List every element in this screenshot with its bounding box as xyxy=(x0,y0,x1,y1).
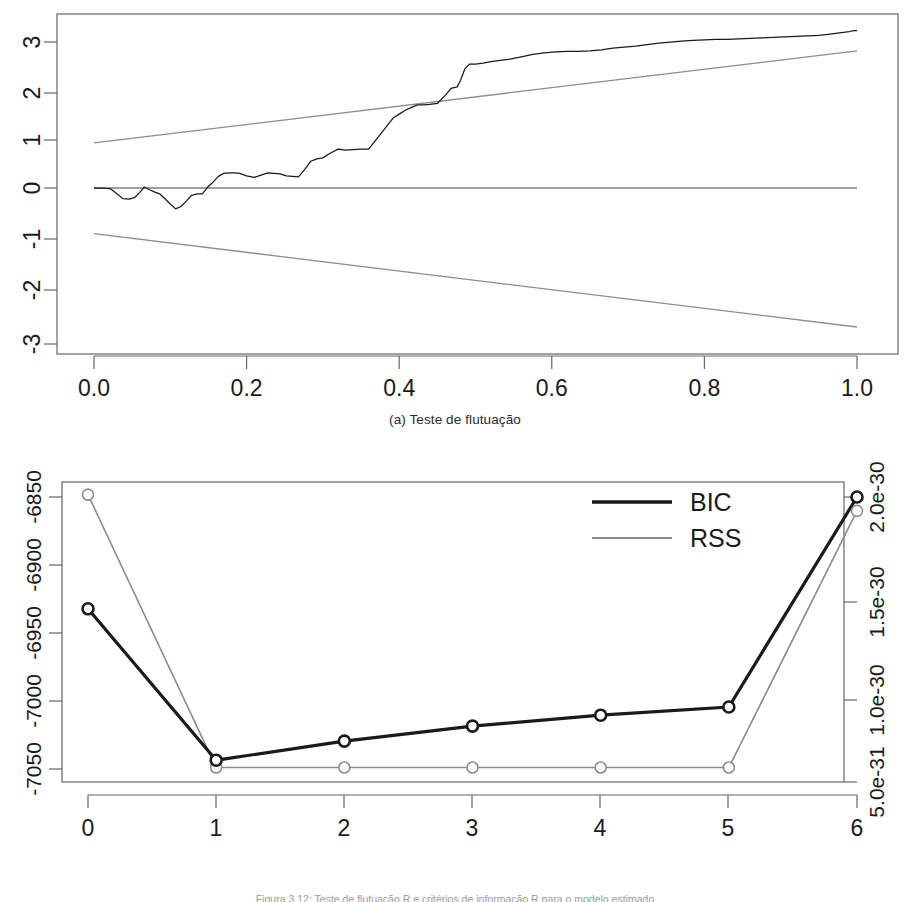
panel-a-fluctuation-test: 3 2 1 0 -1 -2 -3 0.0 0.2 0.4 xyxy=(0,0,910,452)
data-point-marker xyxy=(211,755,222,766)
right-tick-label: 1.0e-30 xyxy=(865,664,888,735)
y-tick-label: -3 xyxy=(19,334,45,354)
data-point-marker xyxy=(467,721,478,732)
panel-b-legend: BIC RSS xyxy=(592,488,741,552)
panel-b-series-group xyxy=(83,489,863,773)
x-tick-label: 3 xyxy=(466,815,479,841)
x-tick-label: 5 xyxy=(722,815,735,841)
x-tick-label: 0.4 xyxy=(383,375,415,401)
legend-label-rss: RSS xyxy=(690,524,741,552)
figure-caption: Figura 3.12: Teste de flutuação R e crit… xyxy=(0,893,910,902)
right-tick-label: 1.5e-30 xyxy=(865,566,888,637)
series-upper-boundary xyxy=(94,51,857,143)
x-tick-label: 4 xyxy=(594,815,607,841)
x-tick-label: 1.0 xyxy=(841,375,873,401)
panel-b-information-criteria: -6850 -6900 -6950 -7000 -7050 2.0e-30 1.… xyxy=(0,452,910,902)
y-tick-label: 1 xyxy=(19,134,45,147)
x-tick-label: 0.2 xyxy=(231,375,263,401)
x-tick-label: 0.8 xyxy=(688,375,720,401)
right-tick-label: 2.0e-30 xyxy=(865,461,888,532)
left-tick-label: -6950 xyxy=(22,606,45,660)
panel-b-svg: -6850 -6900 -6950 -7000 -7050 2.0e-30 1.… xyxy=(0,452,910,902)
data-point-marker xyxy=(595,762,606,773)
panel-b-x-axis xyxy=(88,795,857,808)
x-tick-label: 0.6 xyxy=(536,375,568,401)
panel-a-x-ticklabels: 0.0 0.2 0.4 0.6 0.8 1.0 xyxy=(78,375,873,401)
panel-b-right-ticklabels: 2.0e-30 1.5e-30 1.0e-30 5.0e-31 xyxy=(865,461,888,817)
panel-a-y-axis xyxy=(44,42,57,344)
y-tick-label: 0 xyxy=(19,182,45,195)
y-tick-label: -2 xyxy=(19,280,45,300)
x-tick-label: 2 xyxy=(338,815,351,841)
y-tick-label: 3 xyxy=(19,36,45,49)
panel-b-x-ticklabels: 0 1 2 3 4 5 6 xyxy=(82,815,864,841)
panel-a-x-axis xyxy=(94,356,857,369)
panel-a-y-ticklabels: 3 2 1 0 -1 -2 -3 xyxy=(19,36,45,355)
x-tick-label: 1 xyxy=(210,815,223,841)
series-lower-boundary xyxy=(94,234,857,327)
data-point-marker xyxy=(852,492,863,503)
figure-root: 3 2 1 0 -1 -2 -3 0.0 0.2 0.4 xyxy=(0,0,910,902)
data-point-marker xyxy=(467,762,478,773)
legend-label-bic: BIC xyxy=(690,488,732,516)
x-tick-label: 0 xyxy=(82,815,95,841)
left-tick-label: -7000 xyxy=(22,674,45,728)
data-point-marker xyxy=(83,489,94,500)
right-tick-label: 5.0e-31 xyxy=(865,746,888,817)
data-point-marker xyxy=(723,762,734,773)
left-tick-label: -7050 xyxy=(22,742,45,796)
data-point-marker xyxy=(723,702,734,713)
panel-a-caption: (a) Teste de flutuação xyxy=(0,412,910,427)
y-tick-label: -1 xyxy=(19,229,45,249)
data-point-marker xyxy=(595,710,606,721)
data-point-marker xyxy=(852,505,863,516)
y-tick-label: 2 xyxy=(19,87,45,100)
series-bic-markers xyxy=(83,492,863,766)
left-tick-label: -6850 xyxy=(22,470,45,524)
panel-b-left-axis xyxy=(49,497,62,769)
data-point-marker xyxy=(339,736,350,747)
panel-a-plot-frame xyxy=(57,14,898,354)
data-point-marker xyxy=(339,762,350,773)
panel-b-right-axis xyxy=(844,497,857,782)
data-point-marker xyxy=(83,603,94,614)
panel-a-svg: 3 2 1 0 -1 -2 -3 0.0 0.2 0.4 xyxy=(0,0,910,452)
x-tick-label: 6 xyxy=(851,815,864,841)
series-empirical-process xyxy=(94,31,857,209)
panel-b-left-ticklabels: -6850 -6900 -6950 -7000 -7050 xyxy=(22,470,45,796)
panel-a-series-group xyxy=(94,31,857,327)
x-tick-label: 0.0 xyxy=(78,375,110,401)
left-tick-label: -6900 xyxy=(22,538,45,592)
